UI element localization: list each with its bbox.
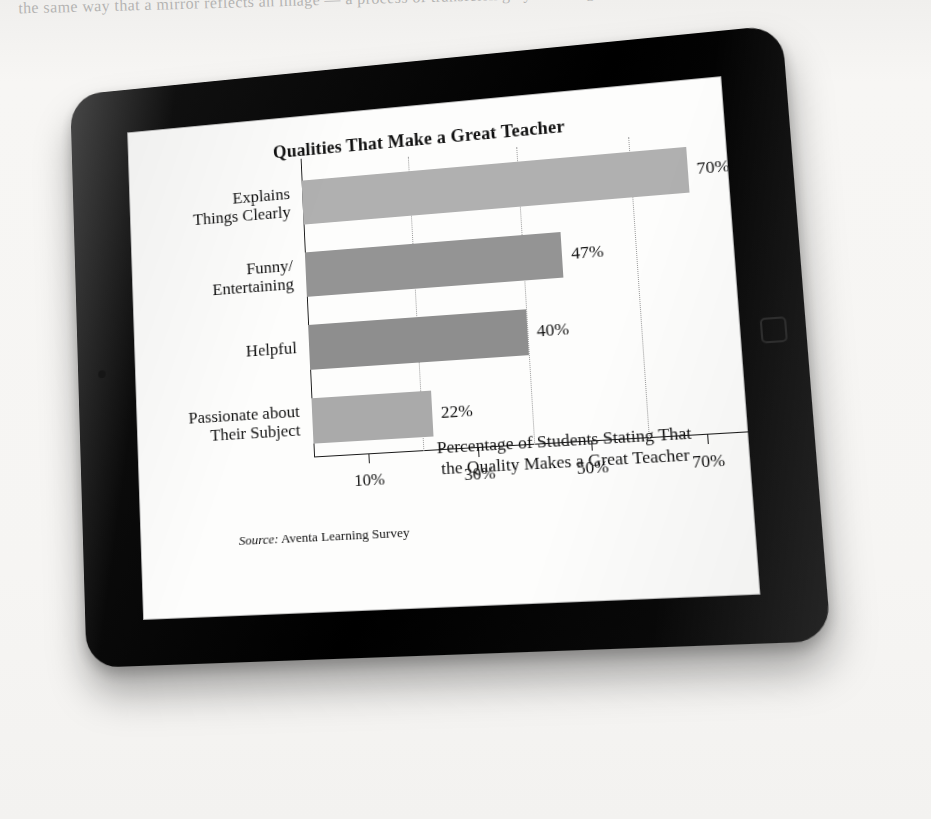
tablet-device: Qualities That Make a Great Teacher 10%3… bbox=[70, 25, 831, 668]
source-note: Source: Aventa Learning Survey bbox=[239, 525, 411, 549]
category-label: Passionate aboutTheir Subject bbox=[127, 402, 301, 452]
chart-figure: Qualities That Make a Great Teacher 10%3… bbox=[127, 76, 760, 620]
tablet-screen[interactable]: Qualities That Make a Great Teacher 10%3… bbox=[127, 76, 760, 620]
bar bbox=[308, 309, 529, 370]
category-label: Helpful bbox=[127, 338, 297, 371]
category-label: Funny/Entertaining bbox=[127, 256, 294, 309]
category-label-line: Helpful bbox=[127, 338, 297, 371]
source-value: Aventa Learning Survey bbox=[278, 525, 410, 547]
bar-value-label: 40% bbox=[536, 318, 570, 341]
plot-area: 10%30%50%70%90% 70%ExplainsThings Clearl… bbox=[301, 119, 760, 457]
tablet-scene: Qualities That Make a Great Teacher 10%3… bbox=[0, 0, 931, 819]
home-button[interactable] bbox=[760, 316, 788, 343]
bar-value-label: 70% bbox=[696, 155, 731, 179]
bar-row: 40%Helpful bbox=[308, 286, 760, 369]
bar-value-label: 47% bbox=[570, 240, 604, 263]
gridline bbox=[742, 127, 760, 431]
category-label: ExplainsThings Clearly bbox=[127, 184, 291, 238]
bar-row: 47%Funny/Entertaining bbox=[305, 209, 761, 296]
bar bbox=[311, 390, 433, 443]
camera-icon bbox=[98, 370, 106, 378]
bar-value-label: 22% bbox=[440, 400, 473, 423]
source-label: Source: bbox=[239, 531, 279, 548]
bar bbox=[302, 146, 689, 224]
